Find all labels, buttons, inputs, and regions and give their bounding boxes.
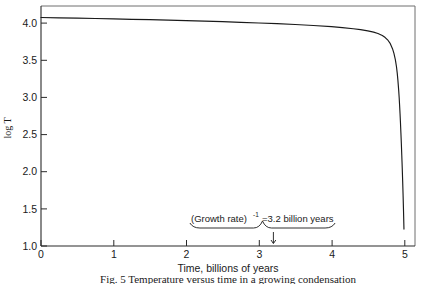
x-tick-label: 1 xyxy=(111,248,117,260)
chart-background xyxy=(0,0,430,284)
y-tick-label: 3.0 xyxy=(22,91,37,103)
x-tick-label: 0 xyxy=(38,248,44,260)
y-tick-label: 4.0 xyxy=(22,17,37,29)
y-tick-label: 3.5 xyxy=(22,54,37,66)
y-axis-title: log T xyxy=(2,117,13,138)
figure-caption: Fig. 5 Temperature versus time in a grow… xyxy=(100,273,356,284)
annotation-label-suffix: =3.2 billion years xyxy=(262,213,334,224)
x-tick-label: 2 xyxy=(184,248,190,260)
y-tick-label: 1.0 xyxy=(22,240,37,252)
annotation-label-superscript: -1 xyxy=(253,211,259,218)
y-tick-label: 1.5 xyxy=(22,203,37,215)
y-tick-label: 2.0 xyxy=(22,165,37,177)
x-tick-label: 3 xyxy=(256,248,262,260)
figure-container: 4.0 3.5 3.0 2.5 2.0 1.5 1.0 0 1 2 3 4 5 xyxy=(0,0,430,284)
chart-canvas: 4.0 3.5 3.0 2.5 2.0 1.5 1.0 0 1 2 3 4 5 xyxy=(0,0,430,284)
x-tick-label: 4 xyxy=(329,248,335,260)
y-tick-label: 2.5 xyxy=(22,128,37,140)
annotation-label-prefix: (Growth rate) xyxy=(191,213,247,224)
x-tick-label: 5 xyxy=(402,248,408,260)
